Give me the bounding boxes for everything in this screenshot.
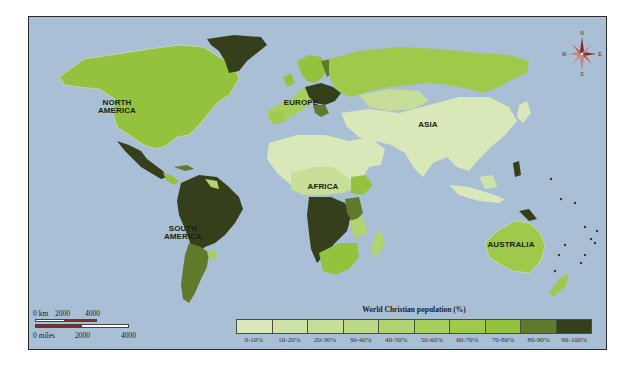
legend-title: World Christian population (%)	[234, 305, 594, 314]
pacific-islands	[550, 178, 598, 272]
legend-swatch-20-30	[308, 320, 344, 333]
region-kazakhstan	[359, 89, 429, 111]
scale-miles-bar	[35, 324, 129, 328]
legend-label: 80-90%	[521, 336, 557, 344]
label-asia: ASIA	[413, 121, 443, 129]
legend-swatch-30-40	[344, 320, 380, 333]
legend-label: 50-60%	[414, 336, 450, 344]
legend-label: 0-10%	[236, 336, 272, 344]
label-europe: EUROPE	[279, 99, 323, 107]
region-iberia	[269, 111, 285, 125]
legend-label: 20-30%	[307, 336, 343, 344]
legend-label: 40-50%	[378, 336, 414, 344]
label-south-america: SOUTH AMERICA	[153, 225, 213, 241]
scale-miles-mid: 2000	[75, 331, 90, 340]
region-philippines	[513, 161, 521, 177]
label-north-america: NORTH AMERICA	[87, 99, 147, 115]
compass-s: S	[580, 71, 584, 77]
label-line: AMERICA	[153, 233, 213, 241]
legend-swatch-60-70	[450, 320, 486, 333]
region-uruguay	[207, 249, 217, 261]
region-north-america	[59, 45, 239, 149]
region-argentina	[181, 243, 209, 303]
region-japan	[517, 101, 531, 123]
legend-label: 60-70%	[450, 336, 486, 344]
scale-miles-end: 4000	[121, 331, 136, 340]
legend-swatch-90-100	[557, 320, 592, 333]
region-central-america	[163, 173, 179, 185]
scale-miles-label: 0 miles	[33, 331, 55, 340]
legend-swatch-40-50	[379, 320, 415, 333]
scale-km-end: 4000	[85, 309, 100, 318]
legend-label: 10-20%	[272, 336, 308, 344]
region-russia	[329, 47, 529, 97]
legend-swatch-0-10	[237, 320, 273, 333]
region-madagascar	[371, 231, 385, 257]
compass-n: N	[580, 30, 584, 36]
label-africa: AFRICA	[303, 183, 343, 191]
legend-label: 70-80%	[485, 336, 521, 344]
legend: World Christian population (%) 0-10% 10-…	[234, 305, 594, 345]
region-south-america	[177, 175, 243, 253]
compass-rose-icon: N S W E	[562, 29, 602, 77]
compass-e: E	[598, 51, 602, 57]
scale-km-mid: 2000	[55, 309, 70, 318]
region-ireland-uk	[283, 73, 295, 87]
legend-label: 30-40%	[343, 336, 379, 344]
region-scandinavia	[297, 55, 327, 83]
label-australia: AUSTRALIA	[481, 241, 541, 249]
region-tanzania	[349, 217, 367, 239]
legend-swatch-50-60	[415, 320, 451, 333]
region-new-zealand	[549, 273, 569, 297]
compass-w: W	[562, 51, 567, 57]
label-line: EUROPE	[279, 99, 323, 107]
world-map: NORTH AMERICA SOUTH AMERICA EUROPE ASIA …	[28, 16, 607, 350]
region-indonesia	[449, 185, 505, 203]
label-line: AUSTRALIA	[481, 241, 541, 249]
legend-label: 90-100%	[556, 336, 592, 344]
region-borneo	[479, 175, 497, 189]
legend-swatch-70-80	[486, 320, 522, 333]
legend-swatch-10-20	[273, 320, 309, 333]
scale-bar: 0 km 2000 4000 0 miles 2000 4000	[33, 309, 143, 347]
legend-bar	[236, 319, 592, 334]
scale-km-label: 0 km	[33, 309, 48, 318]
region-ethiopia	[351, 175, 373, 195]
legend-labels: 0-10% 10-20% 20-30% 30-40% 40-50% 50-60%…	[236, 336, 592, 344]
region-png	[519, 209, 537, 221]
label-line: AMERICA	[87, 107, 147, 115]
label-line: AFRICA	[303, 183, 343, 191]
scale-km-bar	[35, 319, 97, 322]
label-line: ASIA	[413, 121, 443, 129]
legend-swatch-80-90	[521, 320, 557, 333]
